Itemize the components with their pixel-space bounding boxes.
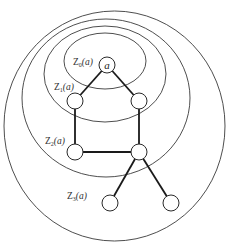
edge-z2-right-z3-left	[110, 152, 139, 203]
node-z2-left	[67, 144, 83, 160]
zone-label-z2: Z2(a)	[45, 136, 65, 147]
node-z1-right	[131, 93, 147, 109]
node-z3-right	[163, 195, 179, 211]
zone-z2-boundary	[22, 19, 190, 177]
zone-z1-boundary	[44, 26, 166, 122]
zone-label-z3: Z3(a)	[67, 191, 87, 202]
node-z1-left	[67, 93, 83, 109]
zone-label-z1: Z1(a)	[54, 82, 74, 93]
node-z2-right	[131, 144, 147, 160]
neighborhood-diagram: a Z0(a) Z1(a) Z2(a) Z3(a)	[0, 0, 228, 247]
edge-z2-right-z3-right	[139, 152, 171, 203]
node-a: a	[99, 57, 115, 73]
zone-label-z0: Z0(a)	[73, 57, 93, 68]
node-a-label: a	[104, 59, 110, 71]
node-z3-left	[102, 195, 118, 211]
